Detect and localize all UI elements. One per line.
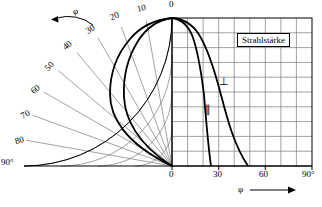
cart-tick-0: 0 (169, 170, 174, 179)
cart-tick-90: 90° (302, 170, 315, 179)
chart-canvas (0, 0, 322, 207)
cart-tick-60: 60 (259, 170, 268, 179)
polar-grid (24, 18, 172, 166)
radiation-intensity-diagram: 0 10 20 30 40 50 60 70 80 90° φ 0 30 60 … (0, 0, 322, 207)
polar-tick-0: 0 (169, 0, 174, 9)
cart-phi-arrow-head (288, 187, 296, 194)
cart-phi-axis-label: φ (238, 185, 243, 194)
cart-tick-30: 30 (213, 170, 222, 179)
curve-perp-polar (110, 18, 172, 166)
phi-arrow-head (51, 16, 59, 23)
polar-tick-90: 90° (1, 158, 14, 167)
curve-label-parallel: ∥ (205, 104, 211, 115)
legend-strahlstaerke: Strahlstärke (237, 33, 290, 47)
curve-par-polar (124, 18, 172, 166)
polar-phi-label: φ (73, 7, 78, 16)
curve-label-perpendicular: ⊥ (219, 76, 229, 87)
